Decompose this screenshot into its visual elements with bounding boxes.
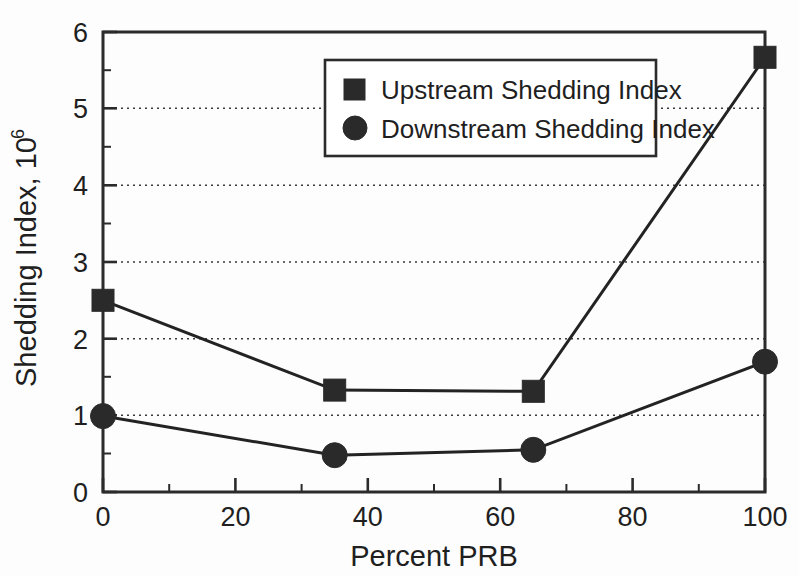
line-chart: 6 5 4 3 2 1 0 0 20 40 60 80 100 Percent … bbox=[0, 0, 799, 576]
data-point-upstream-2 bbox=[522, 380, 544, 402]
y-axis-title-group: Shedding Index, 10 6 bbox=[8, 129, 42, 387]
y-tick-label-4: 4 bbox=[73, 171, 88, 201]
legend-item-downstream: Downstream Shedding Index bbox=[381, 114, 715, 144]
data-point-upstream-1 bbox=[324, 379, 346, 401]
y-axis-title-exponent: 6 bbox=[8, 129, 28, 139]
chart-figure: 6 5 4 3 2 1 0 0 20 40 60 80 100 Percent … bbox=[0, 0, 799, 576]
y-tick-label-6: 6 bbox=[73, 18, 88, 48]
x-tick-labels: 0 20 40 60 80 100 bbox=[95, 502, 787, 532]
x-tick-label-40: 40 bbox=[353, 502, 383, 532]
series-downstream bbox=[91, 349, 778, 468]
x-tick-label-80: 80 bbox=[618, 502, 648, 532]
legend-item-upstream: Upstream Shedding Index bbox=[381, 75, 682, 105]
y-tick-label-3: 3 bbox=[73, 248, 88, 278]
x-tick-label-60: 60 bbox=[485, 502, 515, 532]
legend: Upstream Shedding Index Downstream Shedd… bbox=[325, 60, 715, 156]
y-axis-title: Shedding Index, 10 bbox=[10, 137, 42, 387]
data-point-upstream-3 bbox=[754, 46, 776, 68]
y-tick-labels: 6 5 4 3 2 1 0 bbox=[73, 18, 88, 508]
legend-marker-circle-icon bbox=[343, 116, 367, 140]
data-point-downstream-3 bbox=[753, 349, 778, 374]
data-point-downstream-0 bbox=[91, 404, 116, 429]
x-axis-ticks bbox=[103, 478, 765, 492]
y-tick-label-0: 0 bbox=[73, 478, 88, 508]
legend-marker-square-icon bbox=[344, 79, 365, 100]
series-downstream-line bbox=[103, 362, 765, 456]
x-tick-label-20: 20 bbox=[220, 502, 250, 532]
data-point-downstream-2 bbox=[521, 437, 546, 462]
x-tick-label-0: 0 bbox=[95, 502, 110, 532]
y-tick-label-2: 2 bbox=[73, 325, 88, 355]
x-tick-label-100: 100 bbox=[742, 502, 787, 532]
data-point-downstream-1 bbox=[322, 443, 347, 468]
data-point-upstream-0 bbox=[92, 289, 114, 311]
y-tick-label-5: 5 bbox=[73, 94, 88, 124]
y-tick-label-1: 1 bbox=[73, 401, 88, 431]
x-axis-title: Percent PRB bbox=[350, 540, 518, 572]
